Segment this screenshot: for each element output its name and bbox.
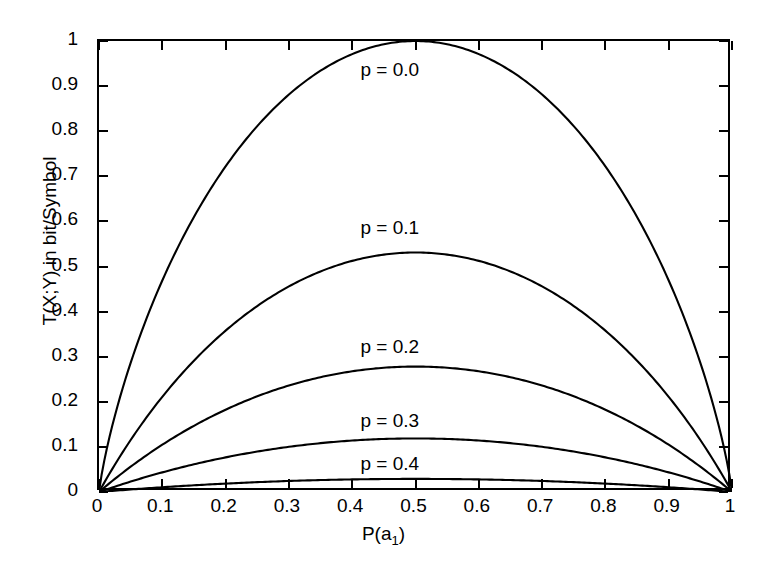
x-tick-5-top <box>415 41 417 50</box>
y-tick-1-right <box>719 446 728 448</box>
y-tick-3-left <box>99 356 108 358</box>
x-axis-label-subscript: 1 <box>392 533 399 548</box>
x-tick-label-8: 0.8 <box>573 495 633 517</box>
x-tick-label-1: 0.1 <box>130 495 190 517</box>
x-tick-5-bottom <box>415 479 417 488</box>
x-tick-label-6: 0.6 <box>447 495 507 517</box>
x-tick-7-bottom <box>541 479 543 488</box>
plot-area: p = 0.0p = 0.1p = 0.2p = 0.3p = 0.4 <box>97 39 730 490</box>
y-tick-label-2: 0.2 <box>0 389 86 411</box>
x-tick-1-top <box>161 41 163 50</box>
y-tick-4-right <box>719 311 728 313</box>
curve-label-2: p = 0.2 <box>361 336 420 358</box>
y-tick-7-left <box>99 175 108 177</box>
y-tick-label-6: 0.6 <box>0 208 86 230</box>
x-tick-label-7: 0.7 <box>510 495 570 517</box>
y-tick-0-right <box>719 491 728 493</box>
y-tick-5-right <box>719 266 728 268</box>
y-tick-label-5: 0.5 <box>0 254 86 276</box>
x-tick-label-5: 0.5 <box>384 495 444 517</box>
curve-label-0: p = 0.0 <box>361 59 420 81</box>
y-tick-10-right <box>719 40 728 42</box>
x-tick-6-top <box>478 41 480 50</box>
y-tick-3-right <box>719 356 728 358</box>
y-tick-7-right <box>719 175 728 177</box>
x-tick-10-bottom <box>731 479 733 488</box>
x-tick-2-top <box>225 41 227 50</box>
x-axis-label-base: P(a <box>362 523 392 544</box>
x-tick-10-top <box>731 41 733 50</box>
y-tick-6-left <box>99 220 108 222</box>
x-tick-8-bottom <box>604 479 606 488</box>
y-tick-8-right <box>719 130 728 132</box>
x-tick-1-bottom <box>161 479 163 488</box>
y-tick-4-left <box>99 311 108 313</box>
x-tick-label-2: 0.2 <box>194 495 254 517</box>
x-tick-2-bottom <box>225 479 227 488</box>
curve-label-1: p = 0.1 <box>361 217 420 239</box>
y-tick-0-left <box>99 491 108 493</box>
y-tick-label-4: 0.4 <box>0 299 86 321</box>
y-tick-9-left <box>99 85 108 87</box>
y-tick-1-left <box>99 446 108 448</box>
y-tick-2-right <box>719 401 728 403</box>
x-tick-0-bottom <box>98 479 100 488</box>
y-tick-8-left <box>99 130 108 132</box>
x-axis-label: P(a1) <box>0 523 767 548</box>
x-tick-label-10: 1 <box>700 495 760 517</box>
y-tick-label-10: 1 <box>0 28 86 50</box>
x-tick-8-top <box>604 41 606 50</box>
curve-label-3: p = 0.3 <box>361 410 420 432</box>
y-tick-5-left <box>99 266 108 268</box>
x-tick-9-top <box>668 41 670 50</box>
x-tick-3-bottom <box>288 479 290 488</box>
x-tick-0-top <box>98 41 100 50</box>
x-tick-4-top <box>351 41 353 50</box>
x-tick-4-bottom <box>351 479 353 488</box>
x-tick-label-9: 0.9 <box>637 495 697 517</box>
y-tick-label-7: 0.7 <box>0 163 86 185</box>
y-tick-label-8: 0.8 <box>0 118 86 140</box>
y-tick-label-1: 0.1 <box>0 434 86 456</box>
x-tick-label-3: 0.3 <box>257 495 317 517</box>
curve-label-4: p = 0.4 <box>361 453 420 475</box>
y-tick-6-right <box>719 220 728 222</box>
chart-figure: T(X;Y) in bit/Symbol 00.10.20.30.40.50.6… <box>0 0 767 575</box>
x-tick-7-top <box>541 41 543 50</box>
x-tick-9-bottom <box>668 479 670 488</box>
x-tick-label-0: 0 <box>67 495 127 517</box>
y-tick-10-left <box>99 40 108 42</box>
x-axis-label-tail: ) <box>399 523 405 544</box>
x-tick-6-bottom <box>478 479 480 488</box>
y-tick-2-left <box>99 401 108 403</box>
y-tick-label-3: 0.3 <box>0 344 86 366</box>
y-tick-9-right <box>719 85 728 87</box>
x-tick-3-top <box>288 41 290 50</box>
x-tick-label-4: 0.4 <box>320 495 380 517</box>
y-tick-label-9: 0.9 <box>0 73 86 95</box>
